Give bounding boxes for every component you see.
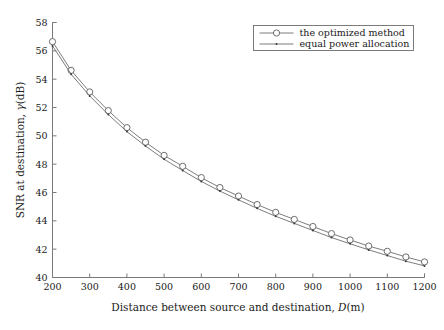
- data-point-dot: [256, 207, 258, 209]
- data-point-dot: [331, 237, 333, 239]
- data-point-dot: [52, 45, 54, 47]
- data-point-dot: [163, 158, 165, 160]
- data-point-circle: [49, 39, 55, 45]
- x-tick-label: 500: [155, 281, 173, 292]
- figure-container: 40424446485052545658 2003004005006007008…: [0, 0, 444, 330]
- data-point-dot: [70, 73, 72, 75]
- data-point-dot: [219, 190, 221, 192]
- data-point-dot: [349, 243, 351, 245]
- x-tick-label: 800: [267, 281, 285, 292]
- y-tick-label: 46: [35, 187, 47, 198]
- y-tick-label: 42: [35, 244, 47, 255]
- data-point-circle: [366, 243, 372, 249]
- y-axis-symbol: γ: [14, 104, 26, 111]
- data-point-dot: [126, 131, 128, 133]
- data-point-circle: [328, 230, 334, 236]
- y-tick-label: 48: [35, 159, 47, 170]
- y-tick-label: 44: [35, 215, 47, 226]
- x-tick-label: 700: [229, 281, 247, 292]
- x-tick-label: 600: [192, 281, 210, 292]
- y-tick-label: 58: [35, 17, 47, 28]
- data-point-circle: [384, 248, 390, 254]
- legend: the optimized methodequal power allocati…: [254, 26, 414, 51]
- data-point-circle: [291, 216, 297, 222]
- data-point-dot: [312, 229, 314, 231]
- data-point-circle: [254, 201, 260, 207]
- data-point-dot: [145, 145, 147, 147]
- legend-circle-marker: [273, 30, 279, 36]
- x-tick-label: 1200: [412, 281, 436, 292]
- data-point-dot: [424, 265, 426, 267]
- x-tick-label: 1100: [375, 281, 399, 292]
- x-axis-symbol: D: [337, 301, 347, 313]
- data-point-circle: [273, 209, 279, 215]
- legend-label: the optimized method: [300, 27, 405, 38]
- data-point-circle: [180, 163, 186, 169]
- x-tick-label: 300: [81, 281, 99, 292]
- x-axis-title: Distance between source and destination,…: [111, 301, 364, 313]
- x-tick-label: 200: [43, 281, 61, 292]
- snr-vs-distance-chart: 40424446485052545658 2003004005006007008…: [0, 0, 444, 330]
- data-point-circle: [403, 254, 409, 260]
- data-point-circle: [347, 237, 353, 243]
- data-point-dot: [182, 170, 184, 172]
- data-point-dot: [275, 215, 277, 217]
- x-tick-label: 400: [118, 281, 136, 292]
- data-point-dot: [368, 249, 370, 251]
- y-tick-label: 52: [35, 102, 47, 113]
- legend-dot-marker: [276, 43, 278, 45]
- data-point-dot: [386, 255, 388, 257]
- y-tick-label: 56: [35, 45, 47, 56]
- x-tick-label: 900: [304, 281, 322, 292]
- x-tick-label: 1000: [338, 281, 362, 292]
- data-point-circle: [421, 259, 427, 265]
- data-point-circle: [87, 89, 93, 95]
- data-point-dot: [89, 95, 91, 97]
- y-axis-title: SNR at destination, γ(dB): [14, 82, 26, 219]
- data-point-circle: [310, 223, 316, 229]
- data-point-dot: [107, 114, 109, 116]
- data-point-dot: [238, 199, 240, 201]
- data-point-dot: [200, 180, 202, 182]
- y-tick-label: 54: [35, 74, 47, 85]
- data-point-dot: [293, 222, 295, 224]
- y-tick-label: 50: [35, 130, 47, 141]
- data-point-circle: [235, 193, 241, 199]
- legend-label: equal power allocation: [300, 38, 410, 49]
- data-point-dot: [405, 260, 407, 262]
